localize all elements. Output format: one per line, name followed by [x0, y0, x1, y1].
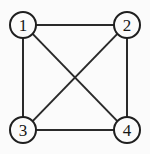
edge-layer	[23, 25, 127, 130]
graph-canvas: 1 2 3 4	[0, 0, 150, 154]
node-4-label: 4	[123, 121, 132, 140]
node-1[interactable]: 1	[10, 12, 36, 38]
node-3-label: 3	[19, 121, 28, 140]
graph-diagram: 1 2 3 4	[0, 0, 150, 154]
node-4[interactable]: 4	[114, 117, 140, 143]
node-3[interactable]: 3	[10, 117, 36, 143]
node-2[interactable]: 2	[114, 12, 140, 38]
node-2-label: 2	[123, 16, 132, 35]
node-1-label: 1	[19, 16, 28, 35]
